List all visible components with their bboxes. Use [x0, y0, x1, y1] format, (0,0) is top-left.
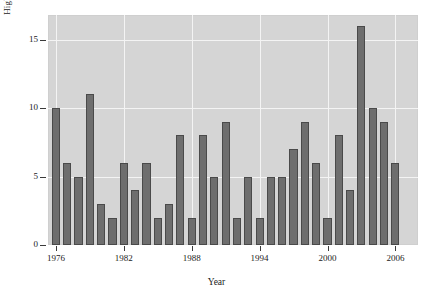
- x-tick-mark: [260, 246, 261, 251]
- y-axis-title-text: High-Repression Spells: [2, 0, 12, 50]
- bar-1983: [131, 190, 139, 245]
- x-tick-label: 1976: [36, 254, 76, 263]
- bar-1990: [210, 177, 218, 245]
- y-tick-mark: [40, 245, 46, 246]
- x-tick-mark: [56, 246, 57, 251]
- bar-1978: [74, 177, 82, 245]
- bar-chart-figure: High-Repression Spells 051015 1976198219…: [0, 0, 433, 300]
- y-tick-mark: [40, 40, 46, 41]
- bar-1987: [176, 135, 184, 245]
- y-tick-label: 0: [34, 240, 39, 249]
- x-axis-title: Year: [0, 277, 433, 287]
- bar-1992: [233, 218, 241, 245]
- bar-1995: [267, 177, 275, 245]
- y-axis-title: High-Repression Spells: [2, 0, 12, 50]
- bar-1980: [97, 204, 105, 245]
- bar-2004: [369, 108, 377, 245]
- bar-2003: [357, 26, 365, 245]
- bar-1977: [63, 163, 71, 245]
- bar-1994: [256, 218, 264, 245]
- bar-1997: [289, 149, 297, 245]
- x-tick-mark: [328, 246, 329, 251]
- x-tick-label: 2000: [308, 254, 348, 263]
- bar-1976: [52, 108, 60, 245]
- y-tick-label: 5: [34, 172, 39, 181]
- bar-1991: [222, 122, 230, 245]
- bar-1985: [154, 218, 162, 245]
- bar-2001: [335, 135, 343, 245]
- y-tick-mark: [40, 108, 46, 109]
- bar-1999: [312, 163, 320, 245]
- bar-1993: [244, 177, 252, 245]
- x-axis-title-text: Year: [208, 277, 226, 287]
- y-tick-mark: [40, 177, 46, 178]
- x-tick-mark: [192, 246, 193, 251]
- bar-1981: [108, 218, 116, 245]
- bar-1986: [165, 204, 173, 245]
- bar-2000: [323, 218, 331, 245]
- plot-panel: [48, 15, 418, 245]
- bar-1988: [188, 218, 196, 245]
- x-tick-mark: [124, 246, 125, 251]
- bar-2006: [391, 163, 399, 245]
- x-tick-label: 2006: [375, 254, 415, 263]
- bar-series: [48, 15, 418, 245]
- bar-2005: [380, 122, 388, 245]
- bar-1996: [278, 177, 286, 245]
- x-tick-label: 1982: [104, 254, 144, 263]
- bar-1998: [301, 122, 309, 245]
- bar-1984: [142, 163, 150, 245]
- x-tick-label: 1994: [240, 254, 280, 263]
- x-tick-mark: [395, 246, 396, 251]
- x-tick-label: 1988: [172, 254, 212, 263]
- bar-1982: [120, 163, 128, 245]
- y-tick-label: 15: [29, 35, 38, 44]
- bar-1989: [199, 135, 207, 245]
- bar-2002: [346, 190, 354, 245]
- bar-1979: [86, 94, 94, 245]
- y-tick-label: 10: [29, 103, 38, 112]
